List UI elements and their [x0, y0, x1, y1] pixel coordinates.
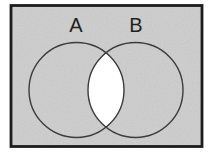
venn-diagram-figure: A B [0, 0, 211, 161]
set-a-label: A [69, 14, 83, 36]
set-b-label: B [129, 14, 142, 36]
venn-diagram-canvas: A B [0, 0, 211, 161]
